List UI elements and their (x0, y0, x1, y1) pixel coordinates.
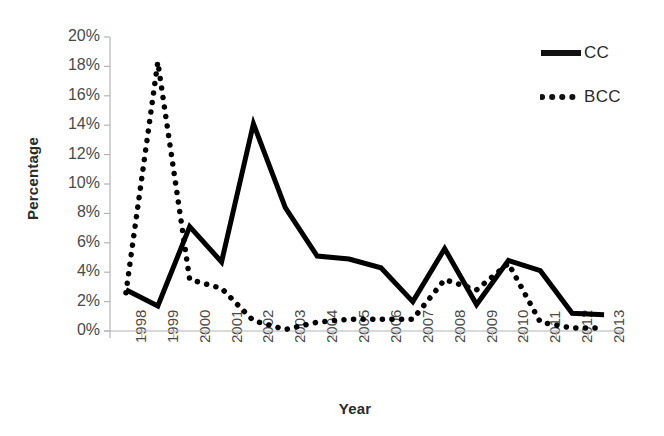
legend-swatch-solid-icon (540, 47, 582, 59)
series-line-bcc (126, 62, 604, 330)
legend-swatch-dotted-icon (540, 91, 582, 103)
legend-label-cc: CC (584, 43, 609, 63)
legend-label-bcc: BCC (584, 87, 621, 107)
line-chart: Percentage Year 20%18%16%14%12%10%8%6%4%… (0, 0, 664, 436)
chart-legend: CC BCC (540, 38, 660, 112)
y-axis-ticks (104, 37, 110, 331)
series-layer (126, 62, 604, 330)
legend-item-cc: CC (540, 38, 660, 68)
series-line-cc (126, 124, 604, 315)
legend-item-bcc: BCC (540, 82, 660, 112)
x-axis-ticks (110, 331, 620, 338)
